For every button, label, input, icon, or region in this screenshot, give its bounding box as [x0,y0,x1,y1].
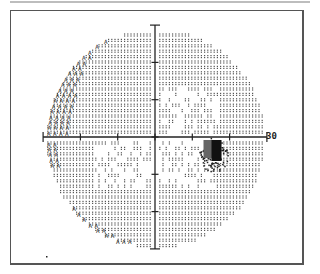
svg-text:A: A [89,222,93,229]
svg-text:A: A [88,54,92,61]
svg-text:A: A [96,227,100,234]
svg-text:A: A [80,70,84,77]
svg-text:A: A [122,238,126,245]
svg-text:A: A [50,162,54,169]
svg-text:A: A [72,205,76,212]
svg-text:A: A [128,238,132,245]
svg-text:A: A [104,38,108,45]
svg-text:A: A [116,238,120,245]
svg-text:A: A [77,211,81,218]
svg-text:A: A [65,130,69,137]
svg-text:A: A [82,216,86,223]
svg-text:A: A [59,130,63,137]
svg-text:A: A [105,232,109,239]
svg-text:A: A [83,60,87,67]
svg-text:A: A [56,162,60,169]
svg-text:A: A [76,76,80,83]
axis-label-30: 30 [266,131,277,141]
svg-text:A: A [47,130,51,137]
svg-text:A: A [53,130,57,137]
svg-text:A: A [111,232,115,239]
svg-text:A: A [95,43,99,50]
